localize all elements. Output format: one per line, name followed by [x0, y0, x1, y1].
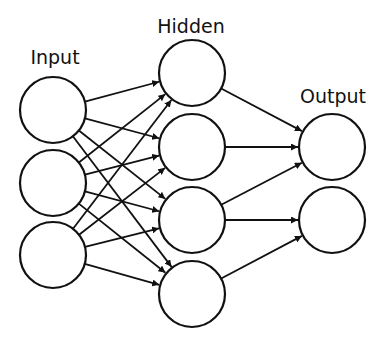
hidden-node-4	[159, 261, 225, 327]
output-node-2	[299, 187, 365, 253]
label-hidden: Hidden	[157, 15, 224, 37]
neural-network-diagram: Input Hidden Output	[0, 0, 387, 341]
edge-input0-hidden0	[85, 82, 159, 102]
output-node-1	[299, 114, 365, 180]
edge-input2-hidden2	[85, 228, 159, 247]
edge-input2-hidden1	[79, 168, 165, 235]
input-node-2	[20, 150, 86, 216]
edge-hidden0-output0	[221, 88, 302, 131]
hidden-node-3	[159, 187, 225, 253]
label-input: Input	[30, 46, 79, 68]
label-output: Output	[300, 85, 366, 107]
neurons	[20, 40, 365, 327]
hidden-node-1	[159, 40, 225, 106]
connections	[73, 82, 302, 285]
edge-input1-hidden0	[79, 94, 165, 162]
edge-hidden3-output1	[221, 236, 302, 279]
edge-hidden2-output0	[221, 163, 302, 205]
input-node-1	[20, 77, 86, 143]
input-node-3	[20, 222, 86, 288]
hidden-node-2	[159, 114, 225, 180]
edge-input2-hidden3	[85, 264, 159, 285]
